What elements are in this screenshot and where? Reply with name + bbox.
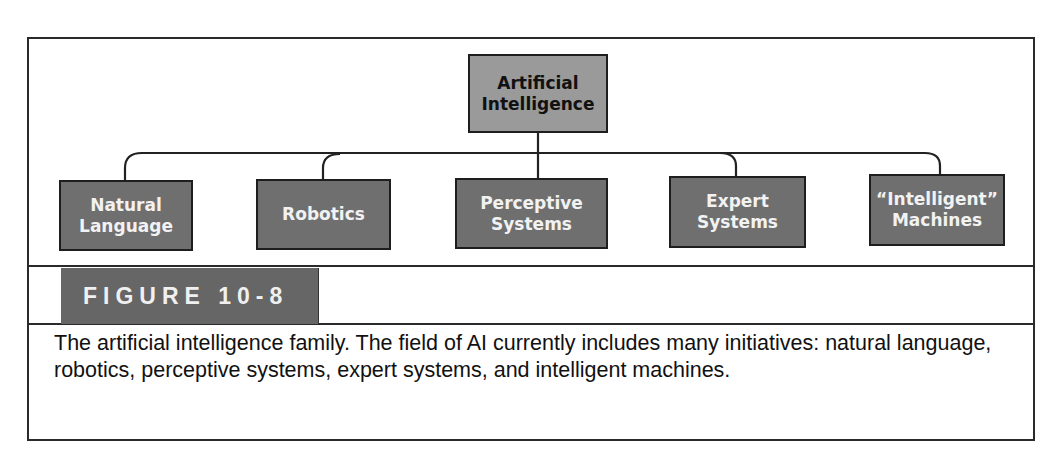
- node-label: Expert: [706, 191, 769, 211]
- node-label: Language: [79, 216, 173, 236]
- node-label: “Intelligent”: [876, 189, 998, 209]
- node-label: Systems: [697, 212, 778, 232]
- node-intelligent-machines: “Intelligent”Machines: [869, 174, 1005, 246]
- node-label: Perceptive: [480, 193, 583, 213]
- node-expert-systems: ExpertSystems: [669, 176, 806, 248]
- figure-caption: The artificial intelligence family. The …: [54, 330, 1014, 384]
- node-perceptive-systems: PerceptiveSystems: [455, 178, 608, 249]
- node-label: Robotics: [282, 204, 365, 224]
- figure-label: FIGURE 10-8: [61, 268, 319, 324]
- node-label: Systems: [491, 214, 572, 234]
- node-label: Natural: [90, 195, 162, 215]
- node-label: Machines: [892, 210, 982, 230]
- node-artificial-intelligence: ArtificialIntelligence: [468, 54, 608, 133]
- node-natural-language: NaturalLanguage: [59, 180, 193, 251]
- node-robotics: Robotics: [256, 179, 391, 250]
- node-label: Intelligence: [482, 94, 595, 114]
- node-label: Artificial: [497, 73, 578, 93]
